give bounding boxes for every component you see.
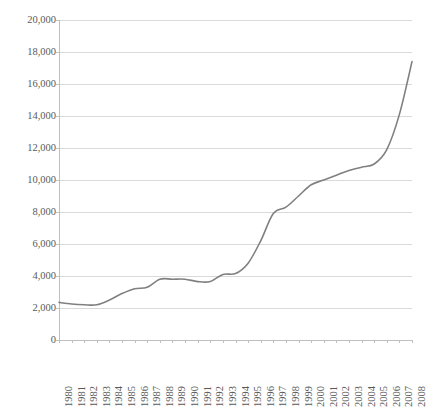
x-axis-tick-label: 1998 <box>290 386 301 407</box>
x-axis-tick-label: 2001 <box>328 386 339 407</box>
x-axis-tick-label: 1993 <box>227 386 238 407</box>
x-axis-tick-label: 1987 <box>151 386 162 407</box>
x-axis-tick-label: 2007 <box>403 386 414 407</box>
x-axis-tick-label: 2005 <box>378 386 389 407</box>
x-axis-tick-label: 1984 <box>113 386 124 407</box>
x-axis-tick-label: 1985 <box>126 386 137 407</box>
x-axis-tick-label: 1999 <box>303 386 314 407</box>
x-axis-tick-label: 2008 <box>416 386 427 407</box>
x-axis-tick-label: 2004 <box>366 386 377 407</box>
x-axis-tick-label: 1997 <box>277 386 288 407</box>
x-axis-tick-label: 2003 <box>353 386 364 407</box>
x-axis-tick-label: 1995 <box>252 386 263 407</box>
x-axis-tick-label: 1990 <box>189 386 200 407</box>
x-axis-tick-label: 1980 <box>63 386 74 407</box>
x-axis-tick-label: 1981 <box>76 386 87 407</box>
x-axis-tick-label: 1991 <box>202 386 213 407</box>
x-axis-tick-label: 1989 <box>176 386 187 407</box>
x-axis-tick-label: 1992 <box>214 386 225 407</box>
x-axis-tick-label: 1988 <box>164 386 175 407</box>
x-axis-tick-label: 1983 <box>101 386 112 407</box>
x-axis-tick-label: 1994 <box>240 386 251 407</box>
x-axis-tick-label: 2006 <box>391 386 402 407</box>
x-axis-tick-label: 2000 <box>315 386 326 407</box>
x-axis-tick-label: 1996 <box>265 386 276 407</box>
x-axis-tick-label: 1982 <box>88 386 99 407</box>
x-axis-tick-label: 2002 <box>340 386 351 407</box>
x-axis-tick-label: 1986 <box>139 386 150 407</box>
